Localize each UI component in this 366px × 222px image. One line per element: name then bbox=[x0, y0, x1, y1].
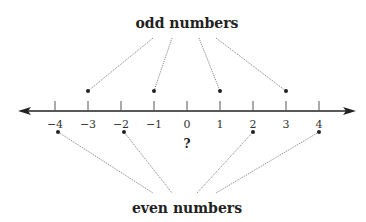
tick-label: 2 bbox=[250, 118, 257, 131]
tick-label: −3 bbox=[80, 118, 96, 131]
even-dot bbox=[251, 130, 255, 134]
tick-label: 3 bbox=[283, 118, 290, 131]
tick-label: 0 bbox=[184, 118, 191, 131]
tick-label: 4 bbox=[316, 118, 323, 131]
number-line-diagram: odd numbers even numbers ? −4−3−2−101234 bbox=[0, 0, 366, 222]
odd-dot bbox=[152, 89, 156, 93]
even-pointer-line bbox=[197, 132, 253, 193]
odd-pointer-line bbox=[154, 38, 172, 91]
diagram-canvas: odd numbers even numbers ? −4−3−2−101234 bbox=[0, 0, 366, 222]
odd-pointer-line bbox=[216, 38, 286, 91]
odd-dot bbox=[218, 89, 222, 93]
tick-label: −4 bbox=[47, 118, 63, 131]
even-dot bbox=[56, 130, 60, 134]
even-numbers-label: even numbers bbox=[132, 200, 242, 216]
odd-dot bbox=[284, 89, 288, 93]
odd-pointer-line bbox=[199, 38, 220, 91]
even-dot bbox=[122, 130, 126, 134]
tick-label: 1 bbox=[217, 118, 224, 131]
odd-dot bbox=[86, 89, 90, 93]
even-pointer-line bbox=[58, 132, 153, 193]
tick-label: −1 bbox=[146, 118, 162, 131]
odd-numbers-label: odd numbers bbox=[136, 15, 239, 31]
even-pointer-line bbox=[216, 132, 319, 193]
tick-label: −2 bbox=[113, 118, 129, 131]
even-dot bbox=[317, 130, 321, 134]
number-line: −4−3−2−101234 bbox=[18, 38, 356, 193]
odd-pointer-line bbox=[88, 38, 153, 91]
question-mark: ? bbox=[183, 137, 190, 151]
even-pointer-line bbox=[124, 132, 172, 193]
